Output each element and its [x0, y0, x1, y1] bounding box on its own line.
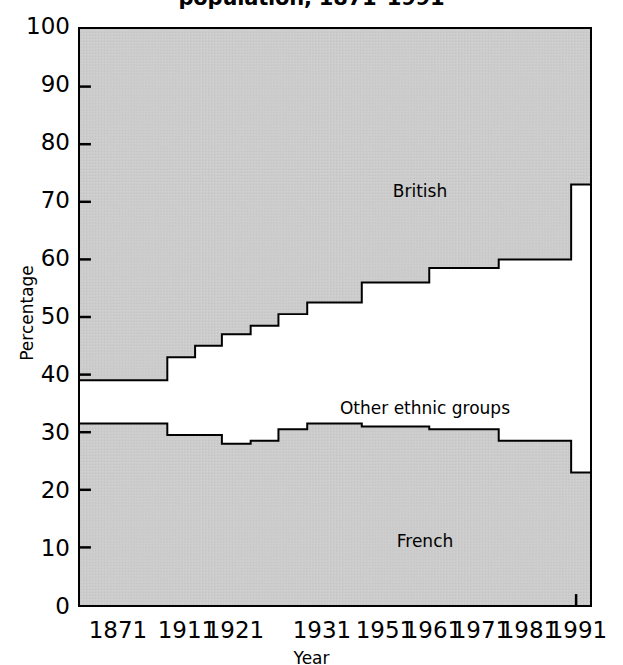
plot-inner — [80, 29, 590, 605]
x-axis-tick-labels: 187119111921193119511961197119811991 — [0, 617, 623, 649]
y-tick-label-90: 90 — [24, 73, 70, 96]
x-tick-label-1931: 1931 — [287, 617, 357, 643]
series-label-other-ethnic-groups: Other ethnic groups — [330, 398, 520, 418]
y-tick-label-30: 30 — [24, 421, 70, 444]
y-axis-title: Percentage — [17, 263, 37, 363]
y-tick-label-20: 20 — [24, 479, 70, 502]
y-tick-label-40: 40 — [24, 363, 70, 386]
y-tick-label-80: 80 — [24, 131, 70, 154]
y-tick-label-10: 10 — [24, 537, 70, 560]
x-tick-label-1991: 1991 — [543, 617, 613, 643]
y-tick-label-0: 0 — [24, 595, 70, 618]
series-label-british: British — [350, 181, 490, 201]
stacked-step-area-series — [80, 29, 590, 605]
chart-root: population, 1871–1991 100908070605040302… — [0, 0, 623, 665]
british-band-area — [80, 29, 590, 380]
y-tick-label-70: 70 — [24, 189, 70, 212]
x-axis-title: Year — [0, 648, 623, 665]
plot-area: British Other ethnic groups French — [78, 27, 592, 607]
series-label-french: French — [355, 531, 495, 551]
y-tick-label-100: 100 — [24, 15, 70, 38]
x-tick-label-1921: 1921 — [200, 617, 270, 643]
chart-title: population, 1871–1991 — [0, 0, 623, 10]
x-tick-label-1871: 1871 — [83, 617, 153, 643]
french-band-area — [80, 424, 590, 605]
